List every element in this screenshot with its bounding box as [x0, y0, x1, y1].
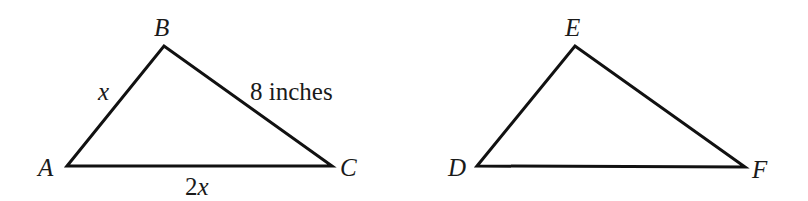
side-label-bc: 8 inches: [250, 78, 333, 105]
vertex-label-b: B: [154, 14, 169, 41]
vertex-label-a: A: [36, 154, 54, 181]
side-label-ab: x: [97, 78, 109, 105]
triangle-abc: A B C x 8 inches 2x: [36, 14, 357, 200]
side-label-ac: 2x: [185, 173, 209, 200]
vertex-label-d: D: [447, 154, 466, 181]
triangles-diagram: A B C x 8 inches 2x D E F: [0, 0, 808, 201]
vertex-label-e: E: [564, 14, 580, 41]
vertex-label-c: C: [340, 154, 357, 181]
side-label-ac-variable: x: [197, 173, 209, 200]
side-label-ac-coefficient: 2: [185, 173, 198, 200]
triangle-abc-outline: [67, 46, 332, 166]
triangle-def: D E F: [447, 14, 768, 183]
triangle-def-outline: [477, 46, 745, 167]
vertex-label-f: F: [751, 156, 768, 183]
